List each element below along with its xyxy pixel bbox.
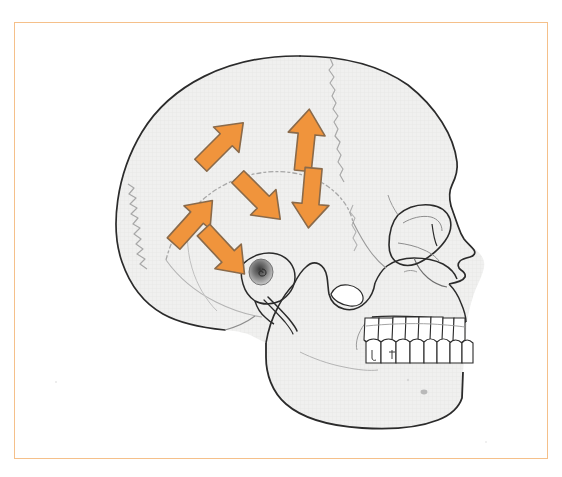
lower-tooth — [396, 339, 410, 363]
lower-tooth — [410, 339, 424, 363]
lower-tooth — [366, 339, 381, 363]
lower-teeth-row — [366, 339, 473, 363]
skull-diagram — [0, 0, 562, 477]
lower-tooth — [381, 339, 396, 363]
external-auditory-meatus — [249, 259, 273, 285]
upper-tooth — [453, 318, 465, 343]
lower-tooth — [450, 340, 462, 363]
lower-tooth — [437, 339, 450, 363]
teeth-group — [364, 317, 473, 363]
lower-tooth — [462, 340, 473, 363]
lower-tooth — [424, 339, 437, 363]
mental-foramen — [421, 390, 428, 395]
